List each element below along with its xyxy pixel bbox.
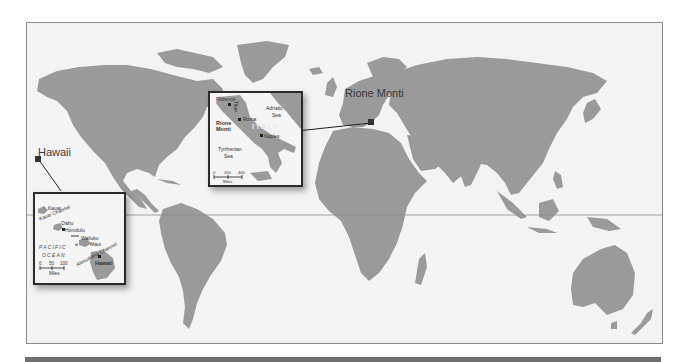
naples-marker (260, 134, 263, 137)
north-america (37, 65, 223, 209)
hawaii-island-label: Hawaii (95, 260, 112, 266)
tyrrhenian-sea-label-line2: Sea (224, 153, 233, 159)
borneo (539, 199, 559, 221)
lanai-island (75, 243, 78, 246)
maui-label: Maui (90, 241, 101, 247)
italy-scale-unit: Miles (223, 179, 232, 184)
new-guinea (587, 217, 621, 231)
italy-scale-200: 200 (224, 170, 231, 175)
rione-monti-inset-label-line2: Monti (216, 126, 231, 132)
adriatic-sea-label-line2: Sea (272, 112, 281, 118)
hawaii-inset-marker (98, 255, 101, 258)
ocean-label: OCEAN (42, 252, 66, 258)
bottom-rule (25, 357, 661, 362)
hawaii-inset-map: Kauai Kauai Channel Oahu Honolulu Wailuk… (33, 192, 126, 285)
philippines (553, 171, 563, 189)
italy-scale-0: 0 (213, 170, 215, 175)
hawaii-callout-label: Hawaii (38, 146, 71, 158)
new-zealand (631, 309, 653, 335)
tasmania (611, 321, 617, 329)
arctic-islands (157, 49, 223, 73)
world-map (27, 23, 663, 344)
florence-marker (228, 103, 231, 106)
adriatic-sea-label-line1: Adriatic (266, 105, 283, 111)
africa (315, 127, 427, 281)
hawaii-scale-unit: Miles (49, 271, 60, 276)
hawaii-leader-line (39, 160, 61, 191)
hawaii-scale-100: 100 (60, 261, 68, 266)
rione-monti-callout-label: Rione Monti (345, 87, 404, 99)
honolulu-label: Honolulu (65, 227, 85, 233)
tyrrhenian-sea-label-line1: Tyrrhenian (218, 146, 242, 152)
iceland (309, 67, 323, 75)
java (527, 227, 557, 233)
world-map-frame: Hawaii Rione Monti (26, 22, 663, 344)
japan (583, 99, 601, 123)
greenland (237, 41, 289, 83)
pacific-label: PACIFIC (39, 244, 67, 250)
roma-marker[interactable] (238, 118, 241, 121)
uk (325, 77, 337, 97)
hawaii-scale-0: 0 (39, 261, 42, 266)
hawaii-marker[interactable] (35, 156, 41, 162)
madagascar (415, 253, 427, 285)
hawaii-scale-50: 50 (49, 261, 54, 266)
tiber-river-label: Tiber (233, 101, 239, 112)
molokai-island (71, 235, 79, 237)
italy-country-label: ITALY (252, 122, 279, 131)
naples-label: Naples (264, 133, 280, 139)
rione-monti-marker[interactable] (368, 119, 374, 125)
italy-inset-map: Florence Tiber Roma Rione Monti ITALY Na… (208, 91, 303, 187)
south-america (159, 203, 227, 329)
cuba (157, 179, 181, 185)
italy-scale-400: 400 (238, 170, 245, 175)
oahu-label: Oahu (61, 220, 73, 226)
asia (389, 57, 607, 195)
australia (571, 245, 635, 315)
india (453, 145, 485, 187)
sicily (250, 171, 272, 181)
